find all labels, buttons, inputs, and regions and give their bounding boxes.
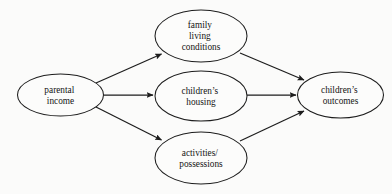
node-layer: parental income family living conditions… — [18, 10, 384, 184]
path-diagram: parental income family living conditions… — [0, 0, 392, 194]
edge-income-to-family-living-conditions — [96, 54, 162, 83]
node-parental-income-label: parental income — [44, 85, 76, 106]
edge-income-to-activities-possessions — [96, 107, 162, 140]
edge-family-living-conditions-to-outcomes — [240, 53, 304, 80]
node-parental-income[interactable]: parental income — [18, 74, 104, 116]
node-childrens-outcomes[interactable]: children’s outcomes — [298, 72, 384, 118]
edge-activities-possessions-to-outcomes — [240, 111, 304, 141]
node-family-living-conditions[interactable]: family living conditions — [155, 10, 247, 62]
node-activities-possessions-label: activities/ possessions — [179, 148, 223, 169]
diagram-canvas: parental income family living conditions… — [0, 0, 392, 194]
node-activities-possessions[interactable]: activities/ possessions — [155, 132, 247, 184]
node-childrens-housing[interactable]: children’s housing — [155, 71, 247, 121]
node-childrens-housing-label: children’s housing — [182, 86, 221, 107]
node-childrens-outcomes-label: children’s outcomes — [321, 85, 360, 106]
